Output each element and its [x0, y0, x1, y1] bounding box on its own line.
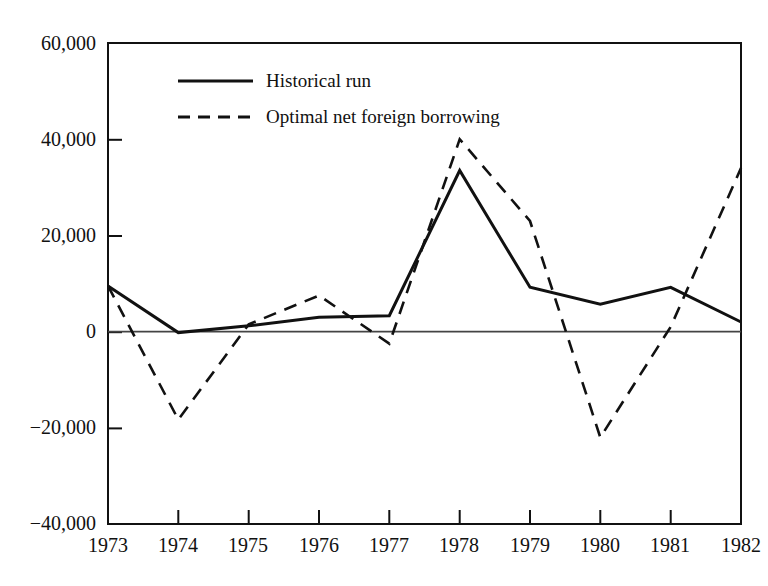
series-line-historical-run — [108, 171, 741, 333]
series-line-optimal-net-foreign-borrowing — [108, 139, 741, 437]
legend-swatches — [178, 81, 253, 117]
x-axis-ticks — [178, 510, 670, 524]
legend-label-historical-run: Historical run — [266, 71, 371, 91]
plot-area — [0, 0, 768, 586]
legend-label-optimal-net-foreign-borrowing: Optimal net foreign borrowing — [266, 107, 500, 127]
chart-figure: 60,000 40,000 20,000 0 −20,000 −40,000 1… — [0, 0, 768, 586]
y-axis-ticks — [108, 140, 122, 429]
